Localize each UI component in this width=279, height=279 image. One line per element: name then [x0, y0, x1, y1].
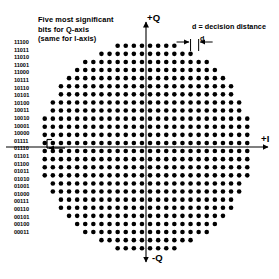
constellation-figure: Five most significant bits for Q-axis (s…	[0, 0, 279, 279]
decision-distance-symbol: d	[200, 34, 204, 43]
constellation-plot	[0, 0, 279, 279]
decision-distance-marker	[177, 39, 213, 51]
axis-label-q-negative: -Q	[152, 252, 163, 263]
decision-distance-label: d = decision distance	[192, 22, 266, 31]
axis-label-q-positive: +Q	[147, 12, 160, 23]
axis-label-i-positive: +I	[261, 133, 270, 144]
